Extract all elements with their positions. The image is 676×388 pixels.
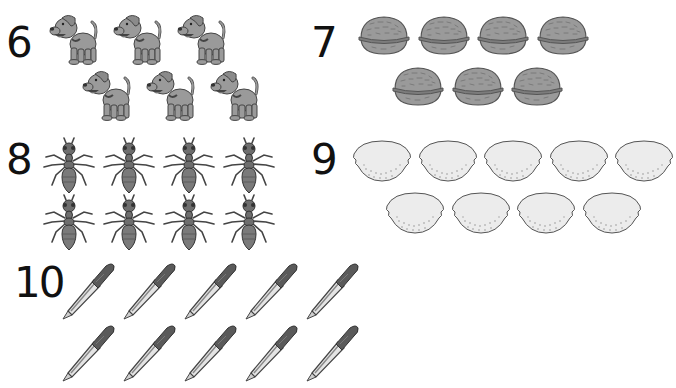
dog-icon [81,68,137,122]
walnut-icon [509,65,565,107]
dog-icon [209,68,265,122]
pen-icon [180,322,240,384]
pen-icon [302,322,362,384]
ant-icon [40,194,98,252]
dog-icon [112,12,168,66]
pen-icon [119,322,179,384]
ant-icon [100,137,158,195]
lemon-icon [383,190,447,236]
walnut-icon [416,14,472,56]
lemon-icon [580,190,644,236]
walnut-icon [535,14,591,56]
lemon-icon [416,138,480,184]
exercise-number: 9 [311,139,336,181]
pen-icon [241,322,301,384]
ant-icon [160,194,218,252]
lemon-icon [350,138,414,184]
ant-icon [160,137,218,195]
pen-icon [241,260,301,322]
dog-icon [176,12,232,66]
lemon-icon [481,138,545,184]
pen-icon [58,260,118,322]
exercise-number: 10 [14,262,63,304]
pen-icon [119,260,179,322]
ant-icon [220,137,278,195]
dog-icon [48,12,104,66]
ant-icon [220,194,278,252]
ant-icon [100,194,158,252]
pen-icon [302,260,362,322]
lemon-icon [612,138,676,184]
pen-icon [58,322,118,384]
exercise-number: 7 [311,22,336,64]
walnut-icon [356,14,412,56]
walnut-icon [390,65,446,107]
pen-icon [180,260,240,322]
walnut-icon [450,65,506,107]
exercise-number: 6 [6,22,31,64]
lemon-icon [514,190,578,236]
exercise-number: 8 [6,139,31,181]
lemon-icon [547,138,611,184]
lemon-icon [449,190,513,236]
walnut-icon [475,14,531,56]
dog-icon [145,68,201,122]
ant-icon [40,137,98,195]
cropped-header-text [0,0,668,2]
